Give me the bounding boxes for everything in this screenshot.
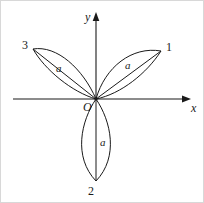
x-axis-arrow-icon — [182, 96, 191, 103]
petal-3-axis-segment — [33, 49, 96, 99]
petal-1-number-label: 1 — [166, 41, 172, 53]
petal-3-segment-label: a — [56, 63, 62, 74]
y-axis-arrow-icon — [93, 12, 100, 21]
origin-point — [94, 97, 97, 100]
rose-curve-figure: y x O 1 2 3 a a a — [0, 0, 204, 203]
x-axis-label: x — [191, 102, 196, 114]
petal-1-segment-label: a — [125, 60, 131, 71]
rose-curve-svg — [1, 1, 204, 203]
y-axis-label: y — [85, 11, 90, 23]
petal-2-segment-label: a — [100, 137, 106, 148]
petal-2-number-label: 2 — [88, 185, 94, 197]
origin-label: O — [83, 101, 92, 113]
petal-3-number-label: 3 — [22, 39, 28, 51]
